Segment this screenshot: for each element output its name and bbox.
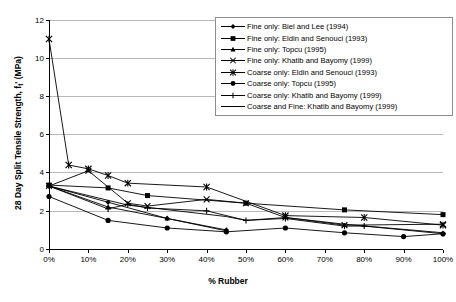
- marker-plus: [230, 92, 236, 98]
- marker-circle: [106, 218, 111, 223]
- marker-asterisk: [105, 172, 111, 179]
- legend-item-2[interactable]: Fine only: Topcu (1995): [219, 44, 449, 55]
- marker-circle: [224, 229, 229, 234]
- marker-plus: [204, 208, 210, 214]
- marker-circle: [165, 225, 170, 230]
- marker-square: [342, 207, 347, 212]
- marker-circle: [342, 230, 347, 235]
- marker-diamond: [231, 24, 236, 29]
- marker-circle: [231, 81, 236, 86]
- legend-marker-plus-icon: [219, 90, 247, 101]
- marker-square: [145, 193, 150, 198]
- legend-item-5[interactable]: Coarse only: Topcu (1995): [219, 78, 449, 89]
- legend-marker-x-icon: [219, 55, 247, 66]
- legend-item-6[interactable]: Coarse only: Khatib and Bayomy (1999): [219, 89, 449, 100]
- y-axis-title-tail: ' (MPa): [13, 56, 23, 84]
- legend-label: Fine only: Khatib and Bayomy (1999): [247, 56, 372, 65]
- y-axis-title-subscript: t: [17, 84, 24, 86]
- marker-plus: [440, 231, 446, 237]
- series-0: [46, 183, 229, 232]
- legend-item-4[interactable]: Coarse only: Eldin and Senouci (1993): [219, 67, 449, 78]
- legend-label: Coarse only: Topcu (1995): [247, 79, 336, 88]
- legend-label: Fine only: Eldin and Senouci (1993): [247, 34, 367, 43]
- marker-circle: [401, 234, 406, 239]
- legend-marker-diamond-icon: [219, 21, 247, 32]
- legend-marker-triangle-icon: [219, 44, 247, 55]
- legend-label: Coarse only: Khatib and Bayomy (1999): [247, 91, 382, 100]
- legend-marker-square-icon: [219, 33, 247, 44]
- legend-label: Coarse only: Eldin and Senouci (1993): [247, 68, 377, 77]
- marker-plus: [105, 206, 111, 212]
- marker-circle: [46, 194, 51, 199]
- legend-label: Fine only: Biel and Lee (1994): [247, 22, 348, 31]
- legend-item-0[interactable]: Fine only: Biel and Lee (1994): [219, 21, 449, 32]
- legend-label: Fine only: Topcu (1995): [247, 45, 326, 54]
- legend-item-1[interactable]: Fine only: Eldin and Senouci (1993): [219, 32, 449, 43]
- y-axis-title-main: 28 Day Split Tensile Strength, f: [13, 86, 23, 210]
- legend-marker-circle-icon: [219, 78, 247, 89]
- x-axis-title: % Rubber: [0, 276, 456, 286]
- chart-figure: 12 10 8 6 4 2 0 0%10%20%30%40%50%60%70%8…: [0, 0, 456, 302]
- chart-legend: Fine only: Biel and Lee (1994)Fine only:…: [215, 17, 453, 116]
- series-6: [46, 183, 446, 237]
- legend-item-7[interactable]: Coarse and Fine: Khatib and Bayomy (1999…: [219, 101, 449, 112]
- marker-circle: [283, 225, 288, 230]
- legend-label: Coarse and Fine: Khatib and Bayomy (1999…: [247, 102, 397, 111]
- legend-marker-line-icon: [219, 101, 247, 112]
- marker-square: [231, 36, 236, 41]
- marker-asterisk: [46, 36, 52, 43]
- legend-item-3[interactable]: Fine only: Khatib and Bayomy (1999): [219, 55, 449, 66]
- marker-square: [441, 212, 446, 217]
- y-axis-title: 28 Day Split Tensile Strength, ft' (MPa): [13, 33, 23, 233]
- legend-marker-asterisk-icon: [219, 67, 247, 78]
- series-2: [46, 183, 229, 233]
